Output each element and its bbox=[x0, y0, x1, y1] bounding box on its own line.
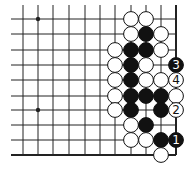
black-stone-icon bbox=[139, 43, 154, 58]
white-stone-icon bbox=[108, 43, 123, 58]
white-stone-icon bbox=[108, 103, 123, 118]
white-stone bbox=[124, 12, 139, 27]
move-number-label: 3 bbox=[172, 58, 180, 72]
black-stone bbox=[154, 103, 169, 118]
white-stone: 2 bbox=[169, 103, 184, 118]
white-stone: 4 bbox=[169, 73, 184, 88]
white-stone bbox=[154, 73, 169, 88]
star-point bbox=[36, 17, 40, 21]
black-stone bbox=[139, 43, 154, 58]
white-stone-icon bbox=[139, 73, 154, 88]
black-stone-icon bbox=[124, 89, 139, 104]
white-stone bbox=[139, 133, 154, 148]
white-stone bbox=[124, 133, 139, 148]
white-stone-icon bbox=[124, 27, 139, 42]
white-stone-icon bbox=[154, 148, 169, 163]
white-stone bbox=[108, 103, 123, 118]
black-stone bbox=[154, 89, 169, 104]
black-stone bbox=[124, 73, 139, 88]
move-number-label: 1 bbox=[172, 133, 180, 147]
white-stone bbox=[139, 73, 154, 88]
white-stone bbox=[139, 58, 154, 73]
white-stone bbox=[108, 58, 123, 73]
white-stone bbox=[154, 27, 169, 42]
white-stone bbox=[169, 89, 184, 104]
white-stone-icon bbox=[108, 89, 123, 104]
black-stone bbox=[124, 103, 139, 118]
black-stone bbox=[124, 43, 139, 58]
white-stone-icon bbox=[139, 133, 154, 148]
black-stone bbox=[124, 89, 139, 104]
black-stone: 3 bbox=[169, 58, 184, 73]
black-stone bbox=[124, 58, 139, 73]
white-stone-icon bbox=[154, 73, 169, 88]
white-stone-icon bbox=[108, 58, 123, 73]
black-stone-icon bbox=[124, 58, 139, 73]
black-stone-icon bbox=[124, 73, 139, 88]
black-stone bbox=[139, 118, 154, 133]
black-stone-icon bbox=[154, 89, 169, 104]
white-stone bbox=[154, 148, 169, 163]
black-stone-icon bbox=[139, 27, 154, 42]
go-board: 3421 bbox=[0, 0, 194, 169]
white-stone-icon bbox=[124, 12, 139, 27]
white-stone-icon bbox=[108, 73, 123, 88]
white-stone-icon bbox=[154, 43, 169, 58]
white-stone bbox=[124, 27, 139, 42]
star-point bbox=[36, 108, 40, 112]
white-stone-icon bbox=[124, 133, 139, 148]
black-stone-icon bbox=[124, 103, 139, 118]
white-stone-icon bbox=[154, 27, 169, 42]
white-stone bbox=[154, 43, 169, 58]
white-stone bbox=[108, 43, 123, 58]
move-number-label: 4 bbox=[172, 73, 180, 87]
white-stone bbox=[108, 89, 123, 104]
move-number-label: 2 bbox=[172, 103, 180, 117]
black-stone bbox=[154, 133, 169, 148]
black-stone-icon bbox=[154, 103, 169, 118]
white-stone-icon bbox=[139, 58, 154, 73]
black-stone bbox=[139, 89, 154, 104]
white-stone-icon bbox=[124, 118, 139, 133]
white-stone bbox=[124, 118, 139, 133]
white-stone-icon bbox=[139, 12, 154, 27]
black-stone bbox=[139, 27, 154, 42]
black-stone: 1 bbox=[169, 133, 184, 148]
white-stone bbox=[108, 73, 123, 88]
white-stone bbox=[139, 12, 154, 27]
black-stone-icon bbox=[139, 89, 154, 104]
black-stone-icon bbox=[154, 133, 169, 148]
black-stone-icon bbox=[124, 43, 139, 58]
black-stone-icon bbox=[139, 118, 154, 133]
white-stone-icon bbox=[169, 89, 184, 104]
